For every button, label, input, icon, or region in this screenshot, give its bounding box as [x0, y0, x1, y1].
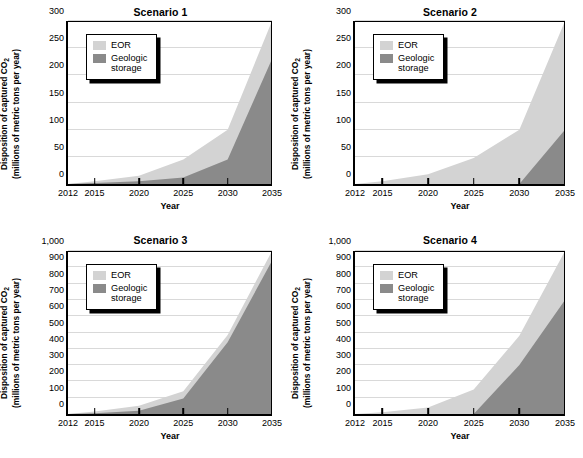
x-axis-tick-label: 2030	[218, 188, 238, 198]
y-axis-tick-label: 100	[336, 383, 351, 393]
co2-subscript: 2	[294, 58, 301, 62]
legend-swatch-eor-icon	[380, 41, 393, 50]
y-axis-title: Disposition of captured CO2(millions of …	[0, 263, 21, 423]
chart-panel-4: Scenario 4Disposition of captured CO2(mi…	[291, 228, 583, 458]
y-axis-tick-label: 0	[59, 399, 64, 409]
y-axis-tick-label: 900	[336, 252, 351, 262]
legend-swatch-geologic-storage-icon	[380, 284, 393, 293]
y-axis-title-line1: Disposition of captured CO	[290, 291, 300, 399]
y-axis-tick-label: 200	[49, 60, 64, 70]
y-axis-tick-label: 300	[49, 350, 64, 360]
legend-item-eor: EOR	[93, 40, 147, 51]
x-axis-tick-label: 2020	[418, 188, 438, 198]
y-axis-title-line2: (millions of metric tons per year)	[11, 263, 22, 423]
legend-label-geologic-storage: Geologic storage	[111, 283, 147, 304]
y-axis-tick-label: 0	[346, 399, 351, 409]
chart-panel-1: Scenario 1Disposition of captured CO2(mi…	[0, 0, 291, 228]
x-axis-title: Year	[68, 201, 272, 211]
y-axis-tick-label: 0	[59, 169, 64, 179]
co2-subscript: 2	[294, 287, 301, 291]
y-axis-tick-label: 300	[336, 6, 351, 16]
y-axis-title-line2: (millions of metric tons per year)	[11, 34, 22, 194]
x-axis-tick-mark	[183, 408, 185, 414]
legend-item-geologic-storage: Geologic storage	[380, 283, 434, 304]
x-axis-tick-mark	[138, 408, 140, 414]
plot-area-wrapper: 01002003004005006007008009001,0002012201…	[66, 251, 272, 416]
y-axis-tick-label: 300	[49, 6, 64, 16]
legend-item-geologic-storage: Geologic storage	[93, 283, 147, 304]
y-axis-tick-label: 400	[336, 334, 351, 344]
plot-area-wrapper: 01002003004005006007008009001,0002012201…	[353, 251, 565, 416]
plot-frame-top	[355, 21, 565, 22]
y-axis-tick-label: 100	[336, 115, 351, 125]
legend-label-eor: EOR	[398, 270, 418, 281]
x-axis-tick-mark	[382, 408, 384, 414]
x-axis-tick-label: 2030	[509, 188, 529, 198]
x-axis-tick-label: 2015	[372, 188, 392, 198]
y-axis-tick-label: 900	[49, 252, 64, 262]
plot-frame-right	[564, 251, 565, 414]
legend-label-eor: EOR	[111, 270, 131, 281]
x-axis-tick-label: 2020	[129, 418, 149, 428]
y-axis-tick-label: 1,000	[328, 236, 351, 246]
chart-legend: EORGeologic storage	[373, 264, 444, 310]
plot-area-wrapper: 0501001502002503002012201520202025203020…	[353, 21, 565, 186]
y-axis-tick-label: 1,000	[41, 236, 64, 246]
x-axis-tick-mark	[473, 408, 475, 414]
y-axis-title-line2: (millions of metric tons per year)	[302, 263, 313, 423]
legend-item-geologic-storage: Geologic storage	[380, 53, 434, 74]
y-axis-tick-label: 0	[346, 169, 351, 179]
legend-label-eor: EOR	[398, 40, 418, 51]
scenario-chart-grid: Scenario 1Disposition of captured CO2(mi…	[0, 0, 583, 458]
legend-item-eor: EOR	[93, 270, 147, 281]
legend-item-eor: EOR	[380, 40, 434, 51]
chart-panel-2: Scenario 2Disposition of captured CO2(mi…	[291, 0, 583, 228]
x-axis-tick-label: 2035	[262, 188, 282, 198]
chart-title: Scenario 2	[291, 6, 583, 18]
plot-frame-right	[271, 21, 272, 184]
x-axis-title: Year	[355, 201, 565, 211]
y-axis-title-line1: Disposition of captured CO	[290, 62, 300, 170]
legend-item-eor: EOR	[380, 270, 434, 281]
x-axis-tick-label: 2035	[555, 188, 575, 198]
x-axis-tick-label: 2035	[555, 418, 575, 428]
plot-frame-right	[271, 251, 272, 414]
y-axis-tick-label: 700	[49, 285, 64, 295]
x-axis-tick-mark	[138, 178, 140, 184]
x-axis-tick-label: 2020	[418, 418, 438, 428]
legend-swatch-geologic-storage-icon	[93, 54, 106, 63]
plot-frame-top	[68, 251, 272, 252]
chart-legend: EORGeologic storage	[373, 34, 444, 80]
x-axis-tick-mark	[519, 408, 521, 414]
x-axis-tick-mark	[227, 178, 229, 184]
x-axis-tick-mark	[183, 178, 185, 184]
x-axis-tick-label: 2012	[345, 188, 365, 198]
y-axis-tick-label: 250	[49, 33, 64, 43]
y-axis-tick-label: 600	[336, 301, 351, 311]
x-axis-tick-label: 2015	[85, 188, 105, 198]
legend-swatch-eor-icon	[93, 271, 106, 280]
y-axis-tick-label: 250	[336, 33, 351, 43]
x-axis-tick-label: 2025	[464, 418, 484, 428]
x-axis-tick-label: 2012	[345, 418, 365, 428]
y-axis-title-line1: Disposition of captured CO	[0, 291, 9, 399]
y-axis-tick-label: 50	[54, 142, 64, 152]
legend-swatch-eor-icon	[93, 41, 106, 50]
y-axis-title-line1: Disposition of captured CO	[0, 62, 9, 170]
x-axis-tick-mark	[427, 408, 429, 414]
chart-panel-3: Scenario 3Disposition of captured CO2(mi…	[0, 228, 291, 458]
legend-label-geologic-storage: Geologic storage	[398, 53, 434, 74]
y-axis-tick-label: 150	[336, 88, 351, 98]
y-axis-tick-label: 300	[336, 350, 351, 360]
chart-legend: EORGeologic storage	[86, 34, 157, 80]
plot-frame-right	[564, 21, 565, 184]
y-axis-tick-label: 150	[49, 88, 64, 98]
y-axis-tick-label: 50	[341, 142, 351, 152]
x-axis-tick-label: 2020	[129, 188, 149, 198]
x-axis-tick-mark	[473, 178, 475, 184]
legend-swatch-geologic-storage-icon	[93, 284, 106, 293]
y-axis-tick-label: 500	[336, 318, 351, 328]
x-axis-tick-label: 2035	[262, 418, 282, 428]
co2-subscript: 2	[3, 58, 10, 62]
y-axis-tick-label: 700	[336, 285, 351, 295]
